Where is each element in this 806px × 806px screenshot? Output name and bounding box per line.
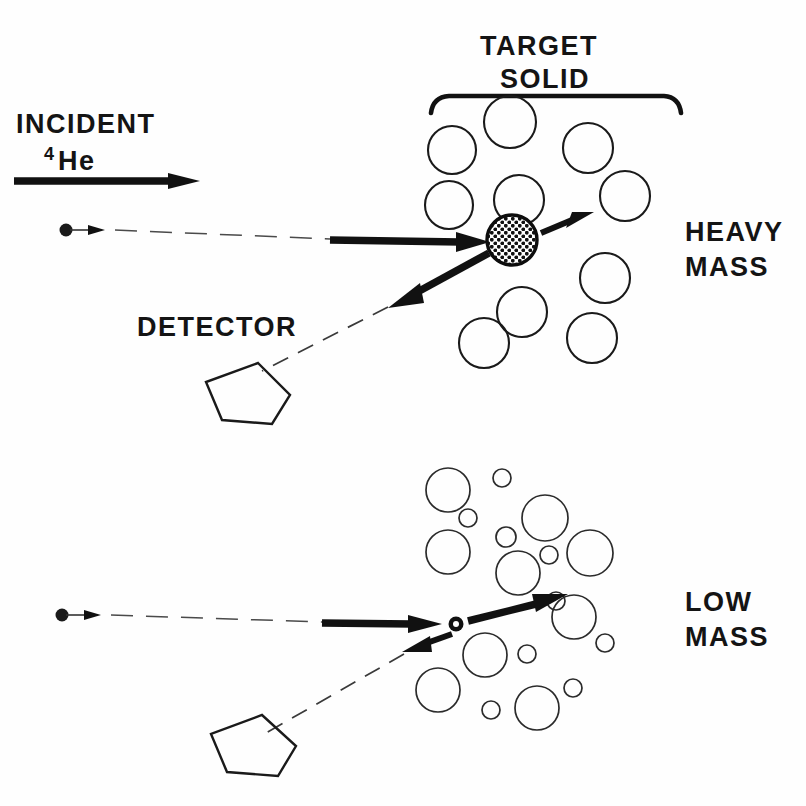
low-mass-label-line1: LOW: [685, 587, 752, 617]
struck-low-mass-nucleus: [449, 617, 464, 632]
low-mass-label-line2: MASS: [685, 622, 769, 652]
struck-heavy-nucleus: [487, 215, 537, 265]
heavy-mass-label-line2: MASS: [685, 252, 769, 282]
incident-isotope-superscript: 4: [44, 144, 56, 164]
incident-isotope-element: He: [58, 146, 96, 176]
target-solid-label-line1: TARGET: [480, 31, 598, 61]
rutherford-backscattering-figure: TARGET SOLID INCIDENT 4 He: [0, 0, 806, 806]
heavy-mass-label-line1: HEAVY: [685, 217, 784, 247]
detector-label-top: DETECTOR: [137, 312, 297, 342]
incident-label: INCIDENT: [16, 109, 156, 139]
diagram-canvas: TARGET SOLID INCIDENT 4 He: [0, 0, 806, 806]
target-solid-label-line2: SOLID: [500, 64, 590, 94]
